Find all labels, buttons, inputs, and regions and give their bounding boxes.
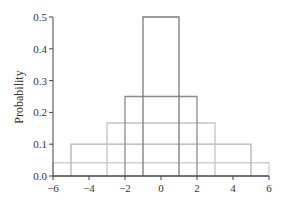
y-tick-label: 0.4 [33, 43, 47, 55]
axes: −6−4−202460.00.10.20.30.40.5 [33, 11, 272, 194]
y-tick-label: 0.0 [33, 170, 47, 182]
distribution-step [107, 123, 215, 176]
y-tick-label: 0.3 [33, 75, 47, 87]
x-tick-label: −4 [83, 182, 95, 194]
y-tick-label: 0.2 [33, 106, 47, 118]
x-tick-label: −6 [47, 182, 59, 194]
y-tick-label: 0.5 [33, 11, 47, 23]
distribution-step [125, 97, 197, 177]
distribution-step [71, 144, 251, 176]
y-tick-label: 0.1 [33, 138, 47, 150]
x-tick-label: 2 [194, 182, 200, 194]
distribution-step [53, 163, 269, 176]
x-tick-label: 4 [230, 182, 236, 194]
plot-area [53, 17, 269, 176]
probability-chart: −6−4−202460.00.10.20.30.40.5 Probability [0, 0, 285, 204]
x-tick-label: 6 [266, 182, 272, 194]
x-tick-label: −2 [119, 182, 131, 194]
y-axis-label: Probability [12, 70, 26, 123]
x-tick-label: 0 [158, 182, 164, 194]
